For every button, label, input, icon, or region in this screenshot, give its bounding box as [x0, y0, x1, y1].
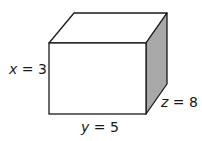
- prism-diagram: x = 3 y = 5 z = 8: [0, 0, 202, 141]
- width-value: 5: [110, 119, 119, 135]
- depth-equals: =: [168, 94, 189, 110]
- depth-value: 8: [189, 94, 198, 110]
- height-value: 3: [38, 61, 47, 77]
- prism-front-face: [49, 43, 146, 114]
- height-label: x = 3: [9, 62, 47, 76]
- width-label: y = 5: [81, 120, 119, 134]
- width-equals: =: [89, 119, 110, 135]
- height-equals: =: [17, 61, 38, 77]
- depth-label: z = 8: [161, 95, 198, 109]
